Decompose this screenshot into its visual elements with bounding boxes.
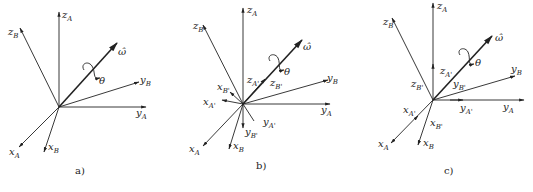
label-omega: ω̂ — [118, 46, 126, 57]
rotation-arrow-icon — [459, 49, 474, 65]
label-xA: xA — [9, 146, 20, 160]
label-zB: zB — [192, 20, 203, 34]
label-xBp: xB' — [430, 117, 443, 131]
label-xAp: xA' — [203, 96, 216, 110]
label-yBp: yB' — [452, 78, 466, 92]
label-yA: yA — [320, 104, 332, 118]
axis-yB — [433, 76, 515, 100]
label-yB: yB — [510, 63, 522, 77]
label-omega: ω̂ — [495, 32, 503, 43]
label-yBp: yB' — [244, 126, 258, 140]
label-xA: xA — [378, 138, 389, 152]
label-zAp: zA' — [246, 74, 259, 88]
label-yB: yB — [326, 72, 338, 86]
caption-a: a) — [75, 165, 85, 176]
label-zA: zA — [61, 9, 72, 23]
label-zA: zA — [246, 4, 257, 18]
rotation-frames-figure: zA zB ω̂ θ yB yA xA xB a) zA zB ω̂ θ zA'… — [0, 0, 533, 192]
caption-b: b) — [256, 160, 266, 171]
label-xB: xB — [233, 140, 244, 154]
label-zBp: zB' — [410, 78, 423, 92]
label-omega: ω̂ — [303, 41, 311, 52]
label-yB: yB — [139, 74, 151, 88]
label-yA: yA — [502, 101, 514, 115]
figure-b: zA zB ω̂ θ zA' zB' yB yA xB' xA' yA' yB'… — [189, 4, 338, 171]
label-yAp: yA' — [459, 102, 473, 116]
axis-omega — [59, 43, 117, 107]
label-yAp: yA' — [262, 116, 276, 130]
label-theta: θ — [284, 66, 290, 77]
caption-c: c) — [444, 165, 454, 176]
label-zB: zB — [382, 16, 393, 30]
label-xBp: xB' — [217, 81, 230, 95]
axis-zB — [20, 28, 59, 107]
label-zB: zB — [7, 26, 18, 40]
label-xB: xB — [423, 137, 434, 151]
label-zBp: zB' — [269, 77, 282, 91]
label-xA: xA — [189, 143, 200, 157]
label-zAp: zA' — [439, 65, 452, 79]
label-xB: xB — [48, 141, 59, 155]
label-zA: zA — [436, 0, 447, 14]
figure-a: zA zB ω̂ θ yB yA xA xB a) — [7, 9, 151, 176]
label-yA: yA — [135, 107, 147, 121]
label-theta: θ — [99, 75, 105, 86]
axis-yAp — [243, 104, 254, 121]
label-xAp: xA' — [403, 104, 416, 118]
figure-c: zA zB ω̂ θ zA' yB zB' yB' yA yA' xA' xB'… — [378, 0, 524, 176]
label-theta: θ — [475, 57, 481, 68]
